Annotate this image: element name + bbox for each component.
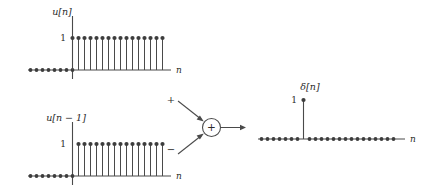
adder-minus-sign: − (167, 144, 175, 155)
adder-operator-label: + (207, 121, 216, 133)
plot-u-n: u[n] 1 n (28, 6, 182, 79)
top-plot-stem-markers (70, 36, 164, 40)
adder-input-top-line (178, 101, 202, 120)
plot-u-n-minus-1: u[n − 1] 1 n (28, 112, 182, 185)
bottom-plot-stems (79, 144, 163, 176)
plot-delta-n: δ[n] 1 n (258, 81, 416, 144)
adder-plus-sign: + (167, 94, 175, 105)
top-plot-signal-label: u[n] (52, 6, 72, 17)
bottom-plot-stem-markers (76, 142, 164, 146)
delta-plot-impulse-marker (301, 98, 305, 102)
adder-output-arrowhead (240, 125, 246, 130)
figure-canvas: u[n] 1 n (0, 0, 423, 195)
delta-plot-zero-samples-right (308, 137, 396, 141)
delta-plot-amplitude-label: 1 (291, 95, 297, 105)
delta-plot-signal-label: δ[n] (300, 81, 320, 92)
bottom-plot-axis-label: n (176, 171, 182, 181)
bottom-plot-signal-label: u[n − 1] (46, 112, 86, 123)
summing-junction: + + − (167, 94, 246, 155)
top-plot-axis-label: n (176, 65, 182, 75)
adder-input-bottom-line (178, 136, 202, 155)
signal-diagram-svg: u[n] 1 n (0, 0, 423, 195)
bottom-plot-amplitude-label: 1 (60, 139, 66, 149)
delta-plot-axis-label: n (410, 134, 416, 144)
top-plot-amplitude-label: 1 (60, 33, 66, 43)
top-plot-stems (73, 38, 163, 70)
